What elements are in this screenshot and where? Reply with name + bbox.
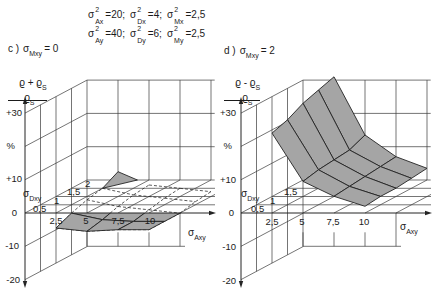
y-tick-label: -20 [0,275,20,285]
y-tick-label: -20 [216,276,236,286]
superscript: 2 [174,25,183,32]
superscript: 2 [174,6,183,13]
param-value: = 2 [261,46,275,56]
depth-tick-label: 1,5 [67,187,80,197]
sup-sub-stack: 2Ay [95,25,103,44]
sigma-symbol: σ [130,29,136,39]
sigma-symbol: σ [88,10,94,20]
depth-axis-label: σDxy [241,189,259,199]
hidden-surface-line [87,188,103,200]
sigma-symbol: σ [167,10,173,20]
floor-gridline [180,194,215,213]
param-value: = 0 [44,44,58,54]
depth-tick-label: 1 [54,196,59,206]
superscript: 2 [95,6,103,13]
depth-axis-label: σDxy [23,189,41,199]
x-tick-label: 2,5 [46,216,66,226]
param-value: =6; [148,29,162,39]
superscript: 2 [137,6,146,13]
hidden-surface-line [180,188,211,191]
x-tick-label: 7,5 [108,216,128,226]
subscript: Dy [137,37,146,44]
hidden-surface-line [180,202,196,214]
superscript: 2 [137,25,146,32]
y-tick-label: -10 [0,241,19,251]
panel-c-title: c ) σ Mxy = 0 [8,44,58,54]
sup-sub-stack: 2My [174,25,183,44]
hidden-surface-line [87,200,118,207]
header-line-1: σ 2Ax =20; σ 2Dx =4; σ 2Mx =2,5 [88,5,210,25]
sigma-symbol: σ [167,29,173,39]
x-tick-label: 10 [354,217,374,227]
depth-tick-label: 1,5 [284,187,297,197]
y-tick-label: +10 [216,175,236,185]
hidden-surface-line [165,198,196,201]
y-unit-label: % [0,141,15,151]
arrow-down-icon [239,281,243,288]
y-tick-label: 0 [216,208,234,218]
subscript: Axy [406,228,418,235]
x-tick-label: 5 [292,217,312,227]
arrow-down-icon [23,281,27,288]
arrow-right-icon [209,211,216,215]
hidden-surface-line [103,188,134,195]
sigma-symbol: σ [130,10,136,20]
y-tick-label: +30 [0,108,22,118]
hidden-surface-line [149,185,180,188]
panel-d-title: d ) σ Mxy = 2 [224,46,275,56]
subscript: Dxy [247,195,259,202]
denominator-text: ϱ [24,92,30,103]
figure: σ 2Ax =20; σ 2Dx =4; σ 2Mx =2,5 σ 2Ay =4… [0,0,441,296]
panel-letter: c ) [8,44,19,54]
param-value: =40; [105,29,125,39]
depth-tick-label: 0,5 [251,204,264,214]
param-value: =20; [105,10,125,20]
denominator-text: ϱ [242,92,248,103]
subscript: S [248,99,253,106]
panel-d-plot [239,77,432,288]
depth-tick-label: 0,5 [33,204,46,214]
sup-sub-stack: 2Mx [174,6,183,25]
subscript: Mxy [246,52,259,59]
param-value: =2,5 [186,10,206,20]
surface-cell [87,188,134,206]
param-value: =2,5 [185,29,205,39]
x-axis-label: σAxy [188,228,206,238]
depth-tick-label: 1 [270,196,275,206]
subscript: Mxy [29,50,42,57]
y-unit-label: % [216,141,232,151]
x-tick-label: 2,5 [262,217,282,227]
depth-tick-label: 2 [85,179,90,189]
subscript: S [30,99,35,106]
x-tick-label: 7,5 [323,217,343,227]
subscript: S [42,84,47,91]
param-value: =4; [148,10,162,20]
hidden-surface-line [118,207,149,210]
sigma-symbol: σ [88,29,94,39]
subscript: My [174,37,183,44]
sup-sub-stack: 2Dx [137,6,146,25]
surface-cell [165,188,212,201]
arrow-right-icon [425,211,432,215]
floor-gridline [396,194,431,213]
y-tick-label: +10 [0,174,22,184]
superscript: 2 [95,25,103,32]
hidden-surface-line [72,200,88,213]
subscript: Dxy [29,195,41,202]
header-line-2: σ 2Ay =40; σ 2Dy =6; σ 2My =2,5 [88,24,210,44]
subscript: Ay [95,37,103,44]
x-tick-label: 10 [140,216,160,226]
x-axis-label: σAxy [400,222,418,232]
sup-sub-stack: 2Dy [137,25,146,44]
hidden-surface-line [149,198,165,210]
sup-sub-stack: 2Ax [95,6,103,25]
x-tick-label: 5 [76,216,96,226]
y-tick-label: +30 [216,108,236,118]
subscript: S [255,84,260,91]
subscript: Axy [194,234,206,241]
y-tick-label: -10 [216,242,236,252]
hidden-surface-line [134,185,150,195]
panel-c-plot [23,80,216,288]
y-tick-label: 0 [0,208,17,218]
panel-letter: d ) [224,46,236,56]
